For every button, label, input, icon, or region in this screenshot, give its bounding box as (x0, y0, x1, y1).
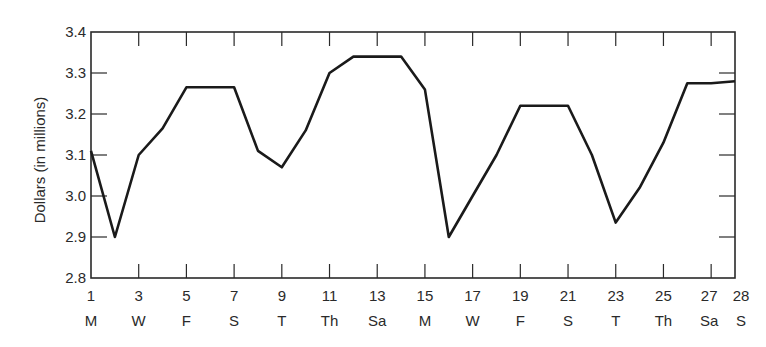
x-tick-day: 23 (607, 287, 624, 304)
y-axis: 2.82.93.03.13.23.33.4 (65, 23, 735, 286)
x-tick-weekday: S (229, 312, 239, 329)
x-tick-weekday: Th (655, 312, 673, 329)
x-tick-weekday: F (182, 312, 191, 329)
y-tick-label: 3.3 (65, 64, 86, 81)
x-tick-weekday: T (277, 312, 286, 329)
line-chart: 2.82.93.03.13.23.33.4 1M3W5F7S9T11Th13Sa… (0, 0, 766, 347)
x-tick-day: 9 (278, 287, 286, 304)
x-tick-day: 15 (417, 287, 434, 304)
x-tick-day: 19 (512, 287, 529, 304)
x-tick-weekday: Th (321, 312, 339, 329)
x-tick-day: 5 (182, 287, 190, 304)
x-tick-weekday: F (516, 312, 525, 329)
x-tick-weekday: S (563, 312, 573, 329)
series-line (91, 57, 735, 237)
x-tick-day: 13 (369, 287, 386, 304)
x-tick-day: 11 (322, 287, 338, 304)
x-tick-day: 27 (701, 287, 718, 304)
y-tick-label: 2.8 (65, 269, 86, 286)
x-tick-weekday: M (85, 312, 98, 329)
y-tick-label: 2.9 (65, 228, 86, 245)
plot-border (91, 32, 735, 278)
x-tick-day: 7 (230, 287, 238, 304)
x-tick-weekday: S (736, 312, 746, 329)
x-tick-weekday: M (419, 312, 432, 329)
plot-frame (91, 32, 735, 278)
data-series (91, 57, 735, 237)
y-axis-label: Dollars (in millions) (31, 97, 48, 224)
y-tick-label: 3.1 (65, 146, 86, 163)
x-tick-weekday: W (466, 312, 481, 329)
x-tick-weekday: Sa (700, 312, 719, 329)
y-tick-label: 3.4 (65, 23, 86, 40)
x-tick-day: 3 (135, 287, 143, 304)
x-tick-day: 1 (87, 287, 95, 304)
x-tick-day: 21 (560, 287, 577, 304)
x-tick-weekday: Sa (368, 312, 387, 329)
y-tick-label: 3.0 (65, 187, 86, 204)
x-tick-weekday: T (611, 312, 620, 329)
x-tick-day: 28 (733, 287, 750, 304)
x-tick-day: 25 (655, 287, 672, 304)
x-tick-weekday: W (132, 312, 147, 329)
y-tick-label: 3.2 (65, 105, 86, 122)
x-tick-day: 17 (464, 287, 481, 304)
